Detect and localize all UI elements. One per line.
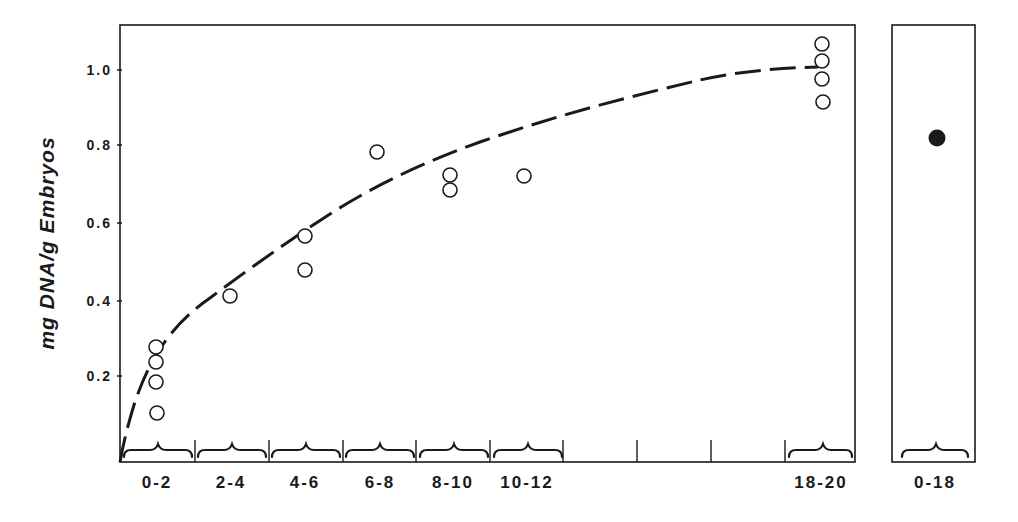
point-18-20-d <box>816 95 830 109</box>
ytick-1-0: 1.0 <box>87 62 112 78</box>
inset-plot-frame <box>892 25 975 462</box>
xcat-0-18: 0-18 <box>914 473 956 492</box>
y-axis-label: mg DNA/g Embryos <box>35 136 58 349</box>
category-braces <box>124 444 968 457</box>
main-plot-frame <box>120 25 855 462</box>
point-2-4 <box>223 289 237 303</box>
xcat-8-10: 8-10 <box>432 473 474 492</box>
point-0-2-c <box>149 375 163 389</box>
brace-10-12 <box>494 444 562 457</box>
point-8-10-b <box>443 183 457 197</box>
xcat-0-2: 0-2 <box>142 473 173 492</box>
fitted-curve <box>120 67 818 462</box>
point-0-2-a <box>149 340 163 354</box>
ytick-0-6: 0.6 <box>87 215 112 231</box>
brace-18-20 <box>789 444 852 457</box>
xcat-6-8: 6-8 <box>365 473 396 492</box>
xcat-4-6: 4-6 <box>290 473 321 492</box>
point-18-20-c <box>815 72 829 86</box>
point-6-8 <box>370 145 384 159</box>
point-8-10-a <box>443 168 457 182</box>
ytick-0-2: 0.2 <box>87 368 112 384</box>
point-0-18-filled <box>929 130 946 147</box>
ytick-0-4: 0.4 <box>87 293 112 309</box>
chart-canvas: mg DNA/g Embryos 1.0 0.8 0.6 0.4 0.2 <box>0 0 1018 522</box>
point-18-20-b <box>815 54 829 68</box>
x-axis-category-labels: 0-2 2-4 4-6 6-8 8-10 10-12 18-20 0-18 <box>142 473 956 492</box>
brace-4-6 <box>272 444 340 457</box>
brace-0-2 <box>124 444 192 457</box>
y-axis-tick-labels: 1.0 0.8 0.6 0.4 0.2 <box>87 62 112 384</box>
point-4-6-b <box>298 263 312 277</box>
ytick-0-8: 0.8 <box>87 137 112 153</box>
point-10-12 <box>517 169 531 183</box>
xcat-18-20: 18-20 <box>794 473 847 492</box>
brace-8-10 <box>420 444 488 457</box>
point-0-2-d <box>150 406 164 420</box>
xcat-2-4: 2-4 <box>216 473 247 492</box>
observed-points <box>149 37 830 420</box>
brace-2-4 <box>198 444 266 457</box>
xcat-10-12: 10-12 <box>500 473 553 492</box>
point-4-6-a <box>298 229 312 243</box>
point-18-20-a <box>815 37 829 51</box>
brace-0-18 <box>902 444 968 457</box>
brace-6-8 <box>346 444 414 457</box>
point-0-2-b <box>149 355 163 369</box>
